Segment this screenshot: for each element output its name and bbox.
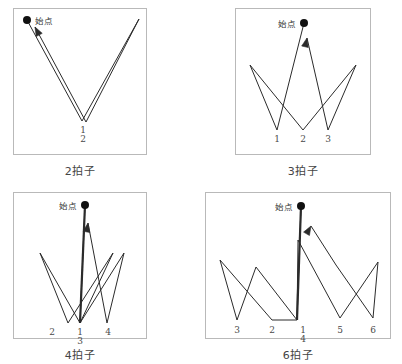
panel-caption-4beat: 4拍子: [13, 346, 147, 362]
panel-frame-6beat: [205, 192, 391, 339]
panel-frame-3beat: [235, 8, 371, 155]
conducting-patterns-figure: 12始点2拍子123始点3拍子2134始点4拍子321456始点6拍子: [0, 0, 402, 364]
panel-caption-6beat: 6拍子: [205, 346, 391, 362]
panel-frame-4beat: [13, 192, 147, 339]
panel-caption-2beat: 2拍子: [13, 162, 147, 178]
panel-frame-2beat: [13, 8, 147, 155]
panel-caption-3beat: 3拍子: [235, 162, 371, 178]
